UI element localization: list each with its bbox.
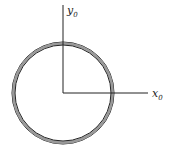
- x-axis-label: x0: [152, 87, 163, 102]
- ring-diagram: y0 x0: [0, 0, 175, 154]
- y-axis-label: y0: [66, 4, 78, 19]
